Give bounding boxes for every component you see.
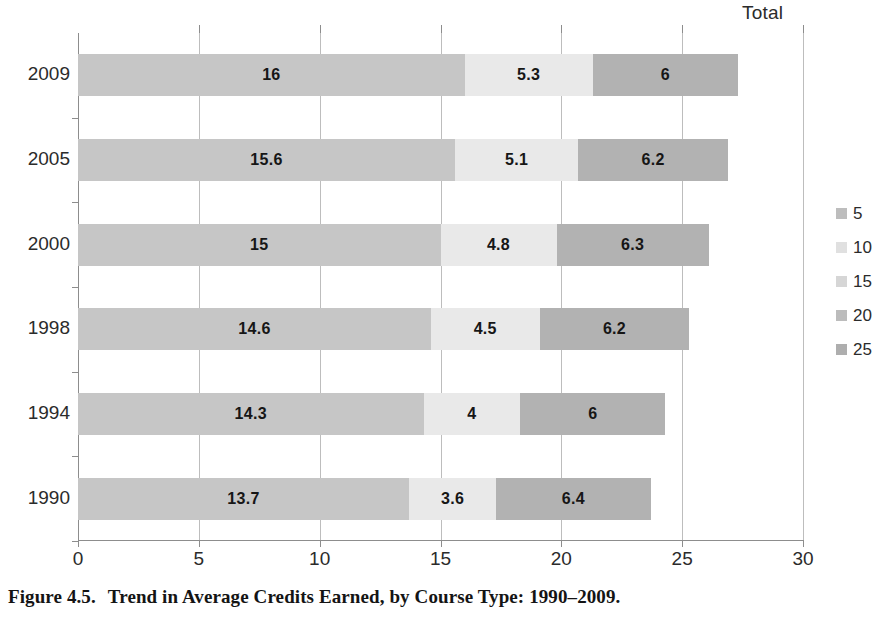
bar-value-label: 4.5: [474, 320, 497, 338]
legend-swatch: [836, 276, 847, 287]
bar-value-label: 16: [262, 66, 280, 84]
plot-area: 165.3615.65.16.2154.86.314.64.56.214.346…: [78, 33, 803, 541]
total-column-header: Total: [742, 2, 783, 24]
bar-segment: 4.8: [441, 224, 557, 266]
bar-segment: 13.7: [78, 478, 409, 520]
x-tick-10: [320, 540, 321, 547]
figure-caption: Figure 4.5.Trend in Average Credits Earn…: [8, 586, 620, 608]
gridline-30: [803, 33, 804, 541]
y-tick: [72, 202, 78, 203]
bar-segment: 16: [78, 54, 465, 96]
x-tick-25: [682, 540, 683, 547]
caption-figure-number: Figure 4.5.: [8, 586, 96, 607]
figure-container: Total 165.3615.65.16.2154.86.314.64.56.2…: [0, 0, 891, 617]
x-tick-top-10: [320, 25, 321, 33]
legend-label: 20: [853, 307, 872, 324]
x-tick-label-20: 20: [541, 548, 581, 570]
bar-value-label: 15.6: [250, 151, 282, 169]
bar-segment: 14.3: [78, 393, 424, 435]
x-tick-label-10: 10: [300, 548, 340, 570]
legend-label: 5: [853, 205, 862, 222]
x-tick-20: [561, 540, 562, 547]
y-tick-label-2000: 2000: [14, 233, 70, 255]
bar-value-label: 6.4: [562, 490, 585, 508]
legend-item[interactable]: 20: [836, 298, 891, 332]
bar-segment: 6.2: [578, 139, 728, 181]
y-tick-label-2009: 2009: [14, 63, 70, 85]
legend-label: 10: [853, 239, 872, 256]
gridline-20: [561, 33, 562, 541]
gridline-10: [320, 33, 321, 541]
bar-segment: 6.3: [557, 224, 709, 266]
legend-label: 15: [853, 273, 872, 290]
x-tick-label-30: 30: [783, 548, 823, 570]
x-tick-15: [441, 540, 442, 547]
x-tick-top-5: [199, 25, 200, 33]
y-tick-label-1994: 1994: [14, 402, 70, 424]
bar-segment: 15: [78, 224, 441, 266]
bar-value-label: 15: [250, 236, 268, 254]
y-tick: [72, 372, 78, 373]
legend-swatch: [836, 242, 847, 253]
bar-segment: 14.6: [78, 308, 431, 350]
bar-value-label: 3.6: [441, 490, 464, 508]
bar-segment: 6: [593, 54, 738, 96]
gridline-15: [441, 33, 442, 541]
x-tick-label-15: 15: [421, 548, 461, 570]
bar-segment: 15.6: [78, 139, 455, 181]
y-tick-label-2005: 2005: [14, 148, 70, 170]
bar-value-label: 5.3: [517, 66, 540, 84]
legend-label: 25: [853, 341, 872, 358]
bar-segment: 4: [424, 393, 521, 435]
bar-value-label: 4.8: [487, 236, 510, 254]
bar-value-label: 6.2: [642, 151, 665, 169]
x-tick-5: [199, 540, 200, 547]
bar-value-label: 14.6: [238, 320, 270, 338]
y-tick: [72, 287, 78, 288]
legend-item[interactable]: 15: [836, 264, 891, 298]
caption-text: Trend in Average Credits Earned, by Cour…: [108, 586, 621, 607]
x-tick-label-5: 5: [179, 548, 219, 570]
bar-value-label: 14.3: [235, 405, 267, 423]
bar-value-label: 6.3: [621, 236, 644, 254]
y-tick-label-1990: 1990: [14, 487, 70, 509]
legend-swatch: [836, 344, 847, 355]
bar-segment: 4.5: [431, 308, 540, 350]
bar-value-label: 4: [467, 405, 476, 423]
bar-segment: 6.2: [540, 308, 690, 350]
legend-item[interactable]: 25: [836, 332, 891, 366]
x-tick-0: [78, 540, 79, 547]
bar-value-label: 6: [661, 66, 670, 84]
x-tick-label-0: 0: [58, 548, 98, 570]
bar-value-label: 6: [588, 405, 597, 423]
x-tick-30: [803, 540, 804, 547]
legend-swatch: [836, 208, 847, 219]
x-tick-label-25: 25: [662, 548, 702, 570]
bar-segment: 6: [520, 393, 665, 435]
legend-item[interactable]: 5: [836, 196, 891, 230]
y-axis-line: [78, 33, 79, 541]
x-tick-top-25: [682, 25, 683, 33]
legend-swatch: [836, 310, 847, 321]
bar-segment: 3.6: [409, 478, 496, 520]
x-tick-top-30: [803, 25, 804, 33]
bar-segment: 5.1: [455, 139, 578, 181]
y-tick: [72, 456, 78, 457]
bar-value-label: 5.1: [505, 151, 528, 169]
y-tick-label-1998: 1998: [14, 317, 70, 339]
legend: 510152025: [836, 196, 891, 366]
bar-segment: 6.4: [496, 478, 651, 520]
gridline-25: [682, 33, 683, 541]
bar-value-label: 13.7: [227, 490, 259, 508]
y-tick: [72, 118, 78, 119]
x-tick-top-20: [561, 25, 562, 33]
x-tick-top-15: [441, 25, 442, 33]
gridline-5: [199, 33, 200, 541]
bar-segment: 5.3: [465, 54, 593, 96]
legend-item[interactable]: 10: [836, 230, 891, 264]
bar-value-label: 6.2: [603, 320, 626, 338]
